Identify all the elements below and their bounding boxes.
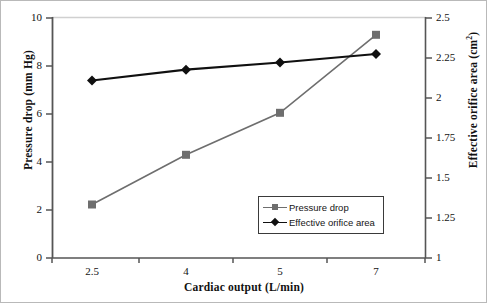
y2tick-label: 1.25 — [436, 211, 476, 223]
data-point-marker — [87, 76, 97, 86]
y-axis-title: Pressure drop (mm Hg) — [22, 20, 34, 200]
data-point-marker — [275, 58, 285, 68]
xtick-label: 2.5 — [62, 265, 122, 277]
y2-axis-title: Effective orifice area (cm2) — [465, 0, 479, 200]
legend-marker-diamond-icon — [263, 217, 287, 228]
y2tick-label: 1 — [436, 251, 476, 263]
left-axis-ticks — [46, 18, 52, 258]
chart-legend: Pressure drop Effective orifice area — [258, 196, 384, 234]
legend-item-pressure-drop: Pressure drop — [263, 200, 349, 215]
data-point-marker — [372, 31, 380, 39]
chart-figure: 10 8 6 4 2 0 2.5 2.25 2 1.75 1.5 1.25 1 … — [0, 0, 488, 304]
ytick-label: 2 — [8, 203, 42, 215]
legend-label: Pressure drop — [289, 202, 349, 213]
ytick-label: 0 — [8, 251, 42, 263]
y2-axis-title-tail: ) — [467, 32, 479, 36]
y2-axis-title-superscript: 2 — [465, 36, 474, 40]
legend-label: Effective orifice area — [289, 217, 375, 228]
data-point-marker — [182, 151, 190, 159]
legend-marker-square-icon — [263, 202, 287, 213]
data-point-marker — [88, 201, 96, 209]
data-point-marker — [276, 109, 284, 117]
xtick-label: 4 — [156, 265, 216, 277]
xtick-label: 5 — [250, 265, 310, 277]
y2-axis-title-main: Effective orifice area (cm — [467, 40, 479, 169]
right-axis-ticks — [426, 18, 432, 258]
chart-canvas — [0, 0, 488, 304]
x-axis-title: Cardiac output (L/min) — [0, 281, 488, 293]
legend-item-effective-orifice-area: Effective orifice area — [263, 215, 375, 230]
xtick-label: 7 — [346, 265, 406, 277]
data-point-marker — [371, 49, 381, 59]
data-point-marker — [181, 65, 191, 75]
